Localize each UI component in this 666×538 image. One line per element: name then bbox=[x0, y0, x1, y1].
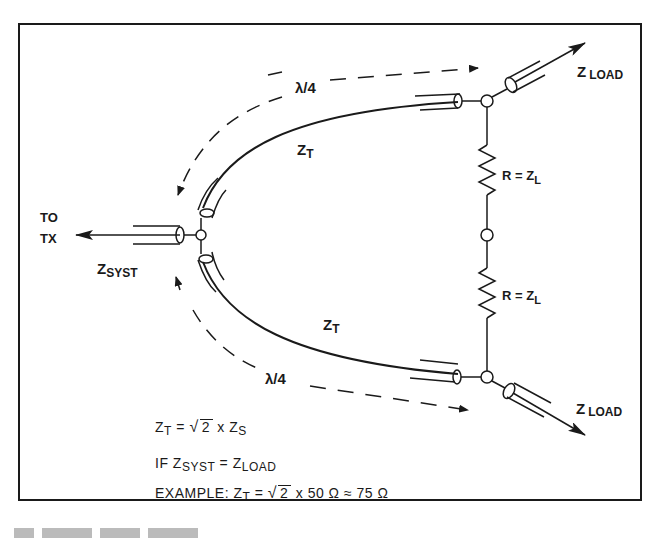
zsyst-label: ZSYST bbox=[97, 260, 138, 280]
formula-condition: IF ZSYST = ZLOAD bbox=[155, 455, 276, 474]
formula-example: EXAMPLE: ZT = √2 x 50 Ω ≈ 75 Ω bbox=[155, 484, 388, 504]
top-quarter-wave-line bbox=[203, 102, 458, 208]
lambda-quarter-bottom-label: λ/4 bbox=[265, 370, 287, 387]
to-tx-label-line1: TO bbox=[40, 210, 58, 225]
bottom-lambda-dashed-arrow bbox=[193, 310, 262, 370]
zload-top-label: ZLOAD bbox=[577, 63, 624, 82]
top-output-node bbox=[481, 95, 493, 107]
power-divider-diagram: λ/4 ZT ZT λ/4 TO TX ZSYST ZLOAD ZLOAD R … bbox=[0, 0, 666, 538]
lambda-quarter-top-label: λ/4 bbox=[295, 79, 317, 96]
top-resistor bbox=[479, 145, 495, 195]
resistor-top-label: R = ZL bbox=[502, 168, 541, 186]
bottom-output-node bbox=[481, 371, 493, 383]
input-junction-node bbox=[196, 230, 206, 240]
top-lambda-dashed-arrow bbox=[178, 97, 282, 195]
bottom-resistor bbox=[479, 268, 495, 318]
zt-top-label: ZT bbox=[297, 141, 314, 161]
to-tx-label-line2: TX bbox=[40, 231, 57, 246]
zload-bottom-label: ZLOAD bbox=[576, 400, 623, 419]
resistor-bottom-label: R = ZL bbox=[502, 288, 541, 306]
formula-zt-equation: ZT = √2 x ZS bbox=[155, 418, 247, 438]
zt-bottom-label: ZT bbox=[323, 316, 340, 336]
center-node bbox=[481, 229, 493, 241]
figure-caption-cutoff bbox=[14, 528, 244, 538]
